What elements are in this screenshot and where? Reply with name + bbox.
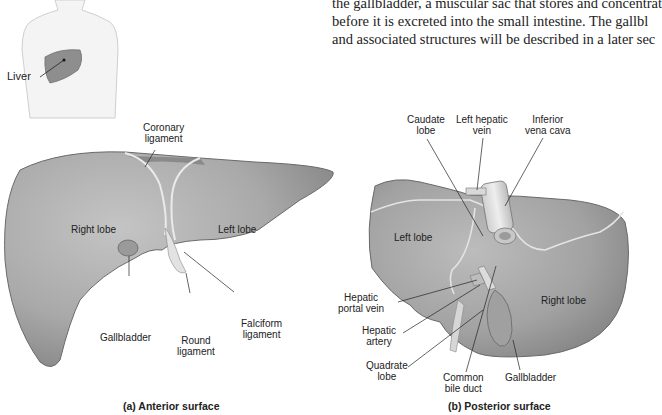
- torso-inset: [22, 0, 118, 118]
- label-falciform-ligament: Falciform ligament: [241, 318, 282, 340]
- posterior-liver: [369, 138, 628, 372]
- inset-liver-label: Liver: [7, 71, 31, 82]
- label-left-hepatic-vein: Left hepatic vein: [456, 114, 508, 136]
- label-hepatic-artery: Hepatic artery: [362, 325, 396, 347]
- label-round-ligament: Round ligament: [177, 335, 215, 357]
- label-inferior-vena-cava: Inferior vena cava: [525, 114, 571, 136]
- label-common-bile-duct: Common bile duct: [443, 372, 484, 394]
- label-coronary-ligament: Coronary ligament: [143, 122, 184, 144]
- label-right-lobe-b: Right lobe: [541, 295, 586, 306]
- label-right-lobe-a: Right lobe: [71, 224, 116, 235]
- label-gallbladder-a: Gallbladder: [100, 332, 151, 343]
- label-left-lobe-a: Left lobe: [218, 224, 256, 235]
- label-gallbladder-b: Gallbladder: [505, 372, 556, 383]
- caption-posterior: (b) Posterior surface: [448, 400, 551, 412]
- anterior-liver: [5, 150, 334, 367]
- caption-anterior: (a) Anterior surface: [123, 400, 219, 412]
- label-hepatic-portal-vein: Hepatic portal vein: [338, 292, 384, 314]
- label-caudate-lobe: Caudate lobe: [407, 114, 445, 136]
- label-quadrate-lobe: Quadrate lobe: [366, 360, 408, 382]
- label-left-lobe-b: Left lobe: [394, 232, 432, 243]
